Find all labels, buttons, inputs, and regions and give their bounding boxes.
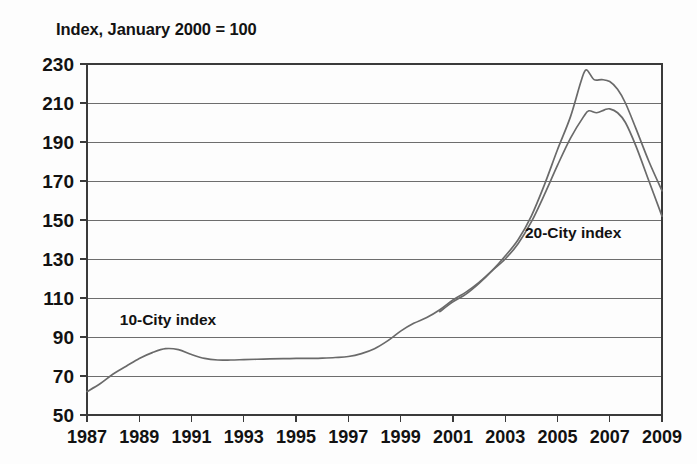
- ytick-label-150: 150: [42, 210, 74, 231]
- ytick-label-70: 70: [53, 366, 74, 387]
- xtick-label-1999: 1999: [381, 427, 421, 447]
- chart-figure: Index, January 2000 = 100 23021019017015…: [0, 0, 697, 464]
- axis-ticks: [80, 64, 662, 422]
- xtick-label-1993: 1993: [224, 427, 264, 447]
- ytick-label-210: 210: [42, 93, 74, 114]
- ytick-label-130: 130: [42, 249, 74, 270]
- series-line-1: [87, 109, 662, 392]
- xtick-label-2007: 2007: [590, 427, 630, 447]
- xtick-label-2001: 2001: [433, 427, 473, 447]
- xtick-label-1997: 1997: [328, 427, 368, 447]
- xtick-label-1995: 1995: [276, 427, 316, 447]
- ytick-label-90: 90: [53, 327, 74, 348]
- xtick-label-1987: 1987: [67, 427, 107, 447]
- xtick-label-2009: 2009: [642, 427, 682, 447]
- chart-plot-area: 230210190170150130110907050 198719891991…: [0, 0, 697, 464]
- series-line-2: [440, 70, 662, 312]
- xtick-label-1991: 1991: [172, 427, 212, 447]
- y-axis-labels: 230210190170150130110907050: [42, 54, 74, 426]
- xtick-label-2003: 2003: [485, 427, 525, 447]
- series-annotation-2: 20-City index: [525, 224, 622, 241]
- ytick-label-170: 170: [42, 171, 74, 192]
- series-annotations: 10-City index20-City index: [120, 224, 622, 329]
- ytick-label-110: 110: [43, 288, 74, 309]
- ytick-label-230: 230: [42, 54, 74, 75]
- series-annotation-1: 10-City index: [120, 311, 217, 328]
- ytick-label-50: 50: [53, 405, 74, 426]
- x-axis-labels: 1987198919911993199519971999200120032005…: [67, 427, 682, 447]
- ytick-label-190: 190: [42, 132, 74, 153]
- xtick-label-1989: 1989: [119, 427, 159, 447]
- xtick-label-2005: 2005: [537, 427, 577, 447]
